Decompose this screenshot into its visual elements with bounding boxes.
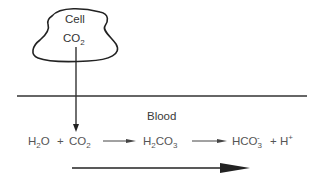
reaction-arrow-2-head xyxy=(217,139,227,143)
hydrogen-ion-formula: H+ xyxy=(280,136,293,148)
plus-sign-2: + xyxy=(270,136,277,148)
plus-sign-1: + xyxy=(57,136,64,148)
co2-formula: CO2 xyxy=(69,136,91,148)
blood-label: Blood xyxy=(147,111,176,123)
carbonic-acid-formula: H2CO3 xyxy=(143,136,177,148)
water-formula: H2O xyxy=(28,136,50,148)
cell-label: Cell xyxy=(65,14,85,26)
cell-co2-label: CO2 xyxy=(63,33,85,45)
overall-arrow-head xyxy=(220,163,250,173)
bicarbonate-formula: HCO3- xyxy=(232,136,260,148)
reaction-arrow-1-head xyxy=(126,139,136,143)
cell-to-blood-arrowhead xyxy=(73,124,79,132)
diagram-canvas xyxy=(0,0,320,188)
